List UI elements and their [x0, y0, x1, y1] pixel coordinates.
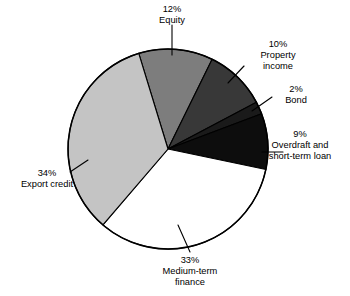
label-equity: 12% Equity — [159, 4, 185, 25]
label-property-income-name-line2: income — [263, 61, 293, 71]
pie-chart-figure: 12% Equity 10% Property income 2% Bond 9… — [0, 0, 350, 296]
label-overdraft-name-line1: Overdraft and — [272, 140, 329, 150]
pie-chart-svg: 12% Equity 10% Property income 2% Bond 9… — [0, 0, 350, 296]
label-medium-term-name-line1: Medium-term — [163, 266, 218, 276]
label-bond-name: Bond — [285, 95, 307, 105]
label-equity-name: Equity — [159, 15, 185, 25]
label-medium-term-percent: 33% — [181, 255, 200, 265]
label-overdraft-name-line2: short-term loan — [269, 151, 332, 161]
label-bond-percent: 2% — [289, 84, 302, 94]
label-equity-percent: 12% — [163, 4, 182, 14]
label-medium-term-name-line2: finance — [175, 277, 205, 287]
label-overdraft: 9% Overdraft and short-term loan — [269, 129, 332, 161]
label-export-credit-percent: 34% — [38, 168, 57, 178]
label-export-credit-name: Export credit — [21, 179, 74, 189]
label-property-income: 10% Property income — [260, 39, 295, 71]
label-property-income-name-line1: Property — [260, 50, 295, 60]
label-bond: 2% Bond — [285, 84, 307, 105]
label-export-credit: 34% Export credit — [21, 168, 74, 189]
label-overdraft-percent: 9% — [293, 129, 306, 139]
label-property-income-percent: 10% — [269, 39, 288, 49]
label-medium-term-finance: 33% Medium-term finance — [163, 255, 218, 287]
pie-slice-group — [68, 49, 268, 249]
